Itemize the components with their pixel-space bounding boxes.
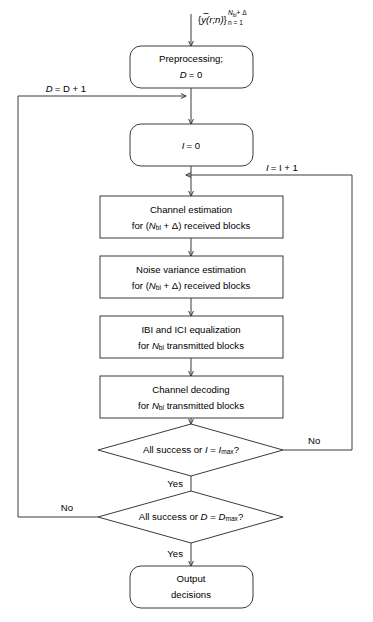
preprocessing-var-d: D [180,69,187,80]
node-output-line2: decisions [171,589,211,600]
eq-var-n: N [152,340,159,351]
input-subscript: n = 1 [228,19,243,26]
flowchart-container: Preprocessing; D= 0 I= 0 Channel estimat… [0,0,373,622]
di-sub-max: max [221,448,234,455]
node-noise-variance-line1: Noise variance estimation [136,264,246,275]
node-equalization-line2: for Nbl transmitted blocks [138,340,244,351]
inner-increment-var: I [266,162,269,173]
eq-prefix: for [138,340,152,351]
di-prefix: All success or [143,444,205,455]
ce-prefix: for ( [132,220,150,231]
nv-prefix: for ( [132,280,150,291]
cd-prefix: for [138,400,152,411]
input-superscript: Nbl+ Δ [228,9,247,18]
input-brace-close: } [224,14,228,25]
node-decoding-line2: for Nbl transmitted blocks [138,400,244,411]
label-yes-middle: Yes [167,478,183,489]
label-no-right: No [308,435,320,446]
node-decoding-line1: Channel decoding [152,384,229,395]
label-no-left: No [61,502,73,513]
input-signal-label: {y(r;n)} [198,14,228,25]
nv-suffix: + Δ) received blocks [161,280,251,291]
init-iteration-value-i: = 0 [187,140,201,151]
node-channel-estimation[interactable] [100,196,283,238]
node-preprocessing-line1: Preprocessing; [159,53,223,64]
inner-increment-rest: = I + 1 [271,162,298,173]
flowchart-canvas: Preprocessing; D= 0 I= 0 Channel estimat… [0,0,373,622]
node-preprocessing-line2: D= 0 [180,69,203,80]
dd-sub-max: max [225,515,238,522]
dd-suffix: ? [238,511,243,522]
node-output-line1: Output [177,573,206,584]
ce-var-n: N [149,220,156,231]
label-yes-bottom: Yes [167,548,183,559]
input-args: (r;n) [206,14,224,25]
di-suffix: ? [234,444,239,455]
outer-increment-rest: = D + 1 [55,83,86,94]
node-ibi-ici-equalization[interactable] [100,316,283,358]
init-iteration-var-i: I [182,140,185,151]
dd-eq: = [208,511,219,522]
node-equalization-line1: IBI and ICI equalization [141,324,240,335]
ce-suffix: + Δ) received blocks [161,220,251,231]
eq-suffix: transmitted blocks [164,340,244,351]
node-channel-estimation-line1: Channel estimation [150,204,232,215]
cd-var-n: N [152,400,159,411]
node-channel-estimation-line2: for (Nbl + Δ) received blocks [132,220,251,231]
node-noise-variance-estimation[interactable] [100,256,283,298]
label-inner-increment: I= I + 1 [266,162,298,173]
nv-var-n: N [149,280,156,291]
di-eq: = [208,444,219,455]
input-sup-tail: + Δ [237,9,248,16]
node-channel-decoding[interactable] [100,376,283,418]
label-outer-increment: D= D + 1 [46,83,86,94]
node-noise-variance-line2: for (Nbl + Δ) received blocks [132,280,251,291]
preprocessing-value-d: = 0 [189,69,203,80]
dd-prefix: All success or [139,511,201,522]
cd-suffix: transmitted blocks [164,400,244,411]
outer-increment-var: D [46,83,53,94]
